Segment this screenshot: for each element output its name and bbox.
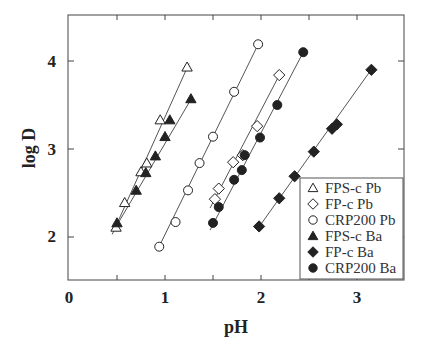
data-point	[186, 94, 196, 103]
data-point	[253, 221, 264, 232]
y-tick-label: 2	[48, 227, 57, 246]
data-point	[209, 218, 218, 227]
x-tick-label: 0	[65, 288, 74, 307]
data-point	[273, 101, 282, 110]
data-point	[214, 203, 223, 212]
data-point	[150, 151, 160, 160]
y-tick-label: 4	[48, 52, 57, 71]
data-point	[184, 186, 193, 195]
data-point	[195, 159, 204, 168]
data-point	[274, 69, 285, 80]
legend-label: CRP200 Pb	[325, 212, 395, 228]
data-point	[299, 48, 308, 57]
data-point	[230, 175, 239, 184]
legend-marker-icon	[309, 216, 317, 224]
data-point	[237, 166, 246, 175]
legend-label: FP-c Ba	[325, 244, 374, 260]
data-point	[256, 133, 265, 142]
x-axis-label: pH	[224, 317, 248, 337]
chart: 0 1 2 3 2 3 4 pH log D FPS-c Pb FP-c Pb …	[0, 0, 425, 347]
data-point	[366, 64, 377, 75]
data-point	[240, 151, 249, 160]
data-point	[209, 132, 218, 141]
x-tick-labels: 0 1 2 3	[65, 288, 362, 307]
data-point	[228, 157, 239, 168]
legend-label: FP-c Pb	[325, 196, 373, 212]
data-point	[254, 40, 263, 49]
data-point	[274, 193, 285, 204]
data-point	[155, 242, 164, 251]
y-axis-label: log D	[19, 128, 39, 169]
data-point	[165, 115, 175, 124]
data-point	[252, 120, 263, 131]
legend-label: CRP200 Ba	[325, 260, 397, 276]
y-tick-label: 3	[48, 140, 57, 159]
data-point	[230, 87, 239, 96]
x-tick-label: 1	[161, 288, 170, 307]
x-tick-label: 3	[353, 288, 362, 307]
data-point	[182, 62, 192, 71]
legend-marker-icon	[309, 264, 317, 272]
legend-label: FPS-c Pb	[325, 180, 381, 196]
legend-label: FPS-c Ba	[325, 228, 382, 244]
data-point	[160, 132, 170, 141]
fit-line	[114, 96, 193, 230]
legend: FPS-c Pb FP-c Pb CRP200 Pb FPS-c Ba FP-c…	[300, 178, 403, 279]
data-point	[171, 218, 180, 227]
y-tick-labels: 2 3 4	[48, 52, 57, 246]
x-tick-label: 2	[257, 288, 266, 307]
